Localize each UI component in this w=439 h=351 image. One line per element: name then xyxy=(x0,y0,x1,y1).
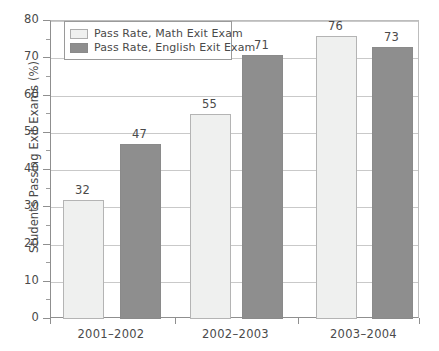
x-tick xyxy=(175,318,176,324)
x-category-label: 2001–2002 xyxy=(51,327,171,341)
bar-english[interactable] xyxy=(120,144,161,319)
y-tick-label: 0 xyxy=(0,310,39,324)
y-tick xyxy=(43,57,50,58)
bar-value-label: 73 xyxy=(359,30,424,44)
bar-english[interactable] xyxy=(242,55,283,319)
y-tick-label: 50 xyxy=(0,124,39,138)
y-tick-label: 40 xyxy=(0,161,39,175)
bar-math[interactable] xyxy=(316,36,357,319)
legend-item-english[interactable]: Pass Rate, English Exit Exam xyxy=(70,41,225,54)
y-tick-label: 30 xyxy=(0,198,39,212)
y-tick xyxy=(43,318,50,319)
bar-value-label: 32 xyxy=(50,183,115,197)
y-tick-label: 10 xyxy=(0,273,39,287)
x-category-label: 2002–2003 xyxy=(176,327,296,341)
gridline xyxy=(51,170,418,171)
y-tick xyxy=(43,95,50,96)
legend: Pass Rate, Math Exit Exam Pass Rate, Eng… xyxy=(64,21,232,60)
bar-value-label: 55 xyxy=(177,97,242,111)
plot-area xyxy=(50,20,419,318)
y-tick-label: 20 xyxy=(0,236,39,250)
legend-swatch-english-icon xyxy=(70,43,88,53)
legend-label-math: Pass Rate, Math Exit Exam xyxy=(94,27,243,40)
gridline xyxy=(51,245,418,246)
y-tick-label: 70 xyxy=(0,49,39,63)
y-tick xyxy=(43,132,50,133)
bar-math[interactable] xyxy=(190,114,231,319)
y-tick xyxy=(43,281,50,282)
x-category-label: 2003–2004 xyxy=(304,327,424,341)
gridline xyxy=(51,282,418,283)
y-tick xyxy=(43,244,50,245)
legend-label-english: Pass Rate, English Exit Exam xyxy=(94,41,255,54)
y-tick xyxy=(43,169,50,170)
y-tick xyxy=(43,206,50,207)
bar-english[interactable] xyxy=(372,47,413,319)
bar-math[interactable] xyxy=(63,200,104,319)
legend-item-math[interactable]: Pass Rate, Math Exit Exam xyxy=(70,27,225,40)
x-tick xyxy=(298,318,299,324)
x-tick xyxy=(50,318,51,324)
gridline xyxy=(51,207,418,208)
bar-chart: Students Passing Exit Exams (%) 01020304… xyxy=(0,0,439,351)
legend-swatch-math-icon xyxy=(70,29,88,39)
bar-value-label: 47 xyxy=(107,127,172,141)
y-tick-label: 80 xyxy=(0,12,39,26)
y-tick xyxy=(43,20,50,21)
x-tick xyxy=(419,318,420,324)
y-tick-label: 60 xyxy=(0,87,39,101)
